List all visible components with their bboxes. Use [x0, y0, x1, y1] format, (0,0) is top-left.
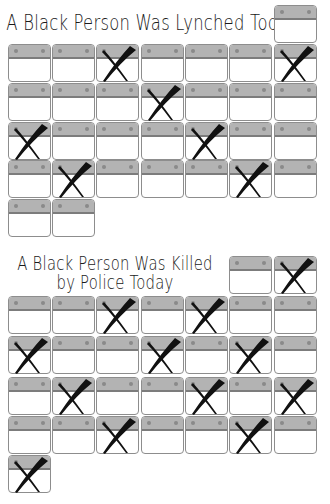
binding-ring-icon	[174, 301, 178, 305]
calendar-day	[229, 377, 272, 415]
calendar-day	[274, 83, 317, 121]
calendar-day	[96, 336, 139, 374]
calendar-binding-band	[53, 200, 94, 214]
binding-ring-icon	[85, 301, 89, 305]
calendar-binding-band	[186, 161, 227, 175]
calendar-day-marked	[185, 377, 228, 415]
killed-by-police-title: A Black Person Was Killed by Police Toda…	[0, 254, 240, 292]
x-mark-icon	[55, 379, 93, 415]
calendar-binding-band	[230, 84, 271, 98]
calendar-day	[274, 160, 317, 198]
calendar-binding-band	[53, 84, 94, 98]
calendar-day-marked	[52, 160, 95, 198]
binding-ring-icon	[147, 421, 151, 425]
calendar-binding-band	[142, 297, 183, 311]
calendar-day	[8, 160, 51, 198]
binding-ring-icon	[102, 341, 106, 345]
calendar-binding-band	[230, 45, 271, 59]
calendar-binding-band	[9, 45, 50, 59]
calendar-binding-band	[142, 161, 183, 175]
calendar-binding-band	[186, 45, 227, 59]
calendar-day	[274, 336, 317, 374]
calendar-day	[185, 416, 228, 454]
calendar-binding-band	[9, 297, 50, 311]
binding-ring-icon	[147, 165, 151, 169]
x-mark-icon	[277, 258, 315, 294]
binding-ring-icon	[307, 421, 311, 425]
lynched-title-line-1: A Black Person Was Lynched Today	[6, 11, 263, 35]
binding-ring-icon	[85, 88, 89, 92]
calendar-day	[52, 44, 95, 82]
binding-ring-icon	[85, 204, 89, 208]
calendar-day	[8, 416, 51, 454]
x-mark-icon	[144, 338, 182, 374]
binding-ring-icon	[235, 88, 239, 92]
binding-ring-icon	[147, 127, 151, 131]
x-mark-icon	[232, 418, 270, 454]
killed-title-line-2: by Police Today	[0, 273, 240, 292]
calendar-binding-band	[275, 6, 316, 20]
calendar-binding-band	[275, 123, 316, 137]
calendar-binding-band	[53, 297, 94, 311]
binding-ring-icon	[14, 382, 18, 386]
binding-ring-icon	[262, 88, 266, 92]
binding-ring-icon	[235, 49, 239, 53]
x-mark-icon	[99, 418, 137, 454]
binding-ring-icon	[280, 10, 284, 14]
calendar-binding-band	[142, 417, 183, 431]
binding-ring-icon	[191, 88, 195, 92]
calendar-binding-band	[97, 84, 138, 98]
binding-ring-icon	[129, 127, 133, 131]
binding-ring-icon	[41, 165, 45, 169]
calendar-day-marked	[8, 122, 51, 160]
calendar-day	[141, 377, 184, 415]
binding-ring-icon	[147, 301, 151, 305]
calendar-day-marked	[229, 160, 272, 198]
binding-ring-icon	[41, 382, 45, 386]
x-mark-icon	[99, 46, 137, 82]
calendar-day	[52, 416, 95, 454]
x-mark-icon	[55, 162, 93, 198]
calendar-day-marked	[141, 336, 184, 374]
x-mark-icon	[232, 338, 270, 374]
calendar-binding-band	[97, 161, 138, 175]
calendar-day	[141, 122, 184, 160]
binding-ring-icon	[307, 301, 311, 305]
binding-ring-icon	[58, 421, 62, 425]
binding-ring-icon	[280, 301, 284, 305]
binding-ring-icon	[262, 49, 266, 53]
binding-ring-icon	[262, 127, 266, 131]
calendar-day-marked	[274, 377, 317, 415]
calendar-day	[274, 122, 317, 160]
calendar-day-marked	[274, 44, 317, 82]
calendar-day-marked	[229, 416, 272, 454]
calendar-day	[229, 44, 272, 82]
calendar-binding-band	[275, 417, 316, 431]
binding-ring-icon	[85, 127, 89, 131]
binding-ring-icon	[14, 421, 18, 425]
calendar-day	[96, 160, 139, 198]
x-mark-icon	[144, 85, 182, 121]
binding-ring-icon	[218, 165, 222, 169]
binding-ring-icon	[235, 127, 239, 131]
binding-ring-icon	[280, 88, 284, 92]
binding-ring-icon	[218, 49, 222, 53]
calendar-day	[8, 296, 51, 334]
binding-ring-icon	[129, 341, 133, 345]
calendar-day	[141, 416, 184, 454]
x-mark-icon	[232, 162, 270, 198]
binding-ring-icon	[280, 341, 284, 345]
binding-ring-icon	[235, 261, 239, 265]
binding-ring-icon	[58, 204, 62, 208]
calendar-day	[8, 44, 51, 82]
binding-ring-icon	[218, 341, 222, 345]
binding-ring-icon	[174, 382, 178, 386]
binding-ring-icon	[41, 301, 45, 305]
calendar-day-marked	[185, 122, 228, 160]
binding-ring-icon	[129, 382, 133, 386]
binding-ring-icon	[174, 127, 178, 131]
binding-ring-icon	[58, 341, 62, 345]
calendar-day	[141, 296, 184, 334]
binding-ring-icon	[218, 421, 222, 425]
binding-ring-icon	[191, 49, 195, 53]
